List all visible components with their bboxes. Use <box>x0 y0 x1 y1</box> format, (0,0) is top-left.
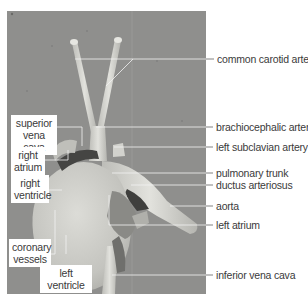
label-left-atrium: left atrium <box>216 219 260 231</box>
label-line: coronary <box>12 241 48 253</box>
label-line: right <box>14 177 46 189</box>
label-line: left ventricle <box>43 267 89 291</box>
label-line: atrium <box>14 161 42 173</box>
label-right-ventricle: right ventricle <box>11 175 49 203</box>
label-ductus-arteriosus: ductus arteriosus <box>216 179 293 191</box>
label-coronary-vessels: coronary vessels <box>9 239 51 267</box>
label-inferior-vena-cava: inferior vena cava <box>216 269 295 281</box>
label-brachiocephalic-artery: brachiocephalic artery <box>216 121 308 133</box>
label-left-subclavian-artery: left subclavian artery <box>216 141 308 153</box>
label-aorta: aorta <box>216 200 239 212</box>
label-line: superior <box>14 117 54 129</box>
label-line: right <box>14 149 42 161</box>
label-right-atrium: right atrium <box>11 147 45 175</box>
label-common-carotid-arteries: common carotid arteries <box>217 53 308 65</box>
label-line: ventricle <box>14 189 46 201</box>
label-left-ventricle: left ventricle <box>40 265 92 293</box>
label-pulmonary-trunk: pulmonary trunk <box>216 167 288 179</box>
label-line: vessels <box>12 253 48 265</box>
